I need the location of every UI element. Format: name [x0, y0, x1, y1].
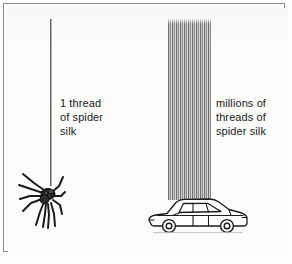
illustration-figure: 1 thread of spider silk millions of thre…	[0, 0, 292, 264]
car-illustration	[143, 194, 251, 236]
spider-illustration	[14, 166, 66, 230]
label-millions-of-threads: millions of threads of spider silk	[216, 96, 292, 138]
single-silk-thread-highlight	[51, 19, 52, 186]
silk-thread-bundle	[168, 19, 211, 200]
label-one-thread: 1 thread of spider silk	[60, 96, 130, 138]
silk-thread-bundle-top-fade	[168, 19, 211, 24]
